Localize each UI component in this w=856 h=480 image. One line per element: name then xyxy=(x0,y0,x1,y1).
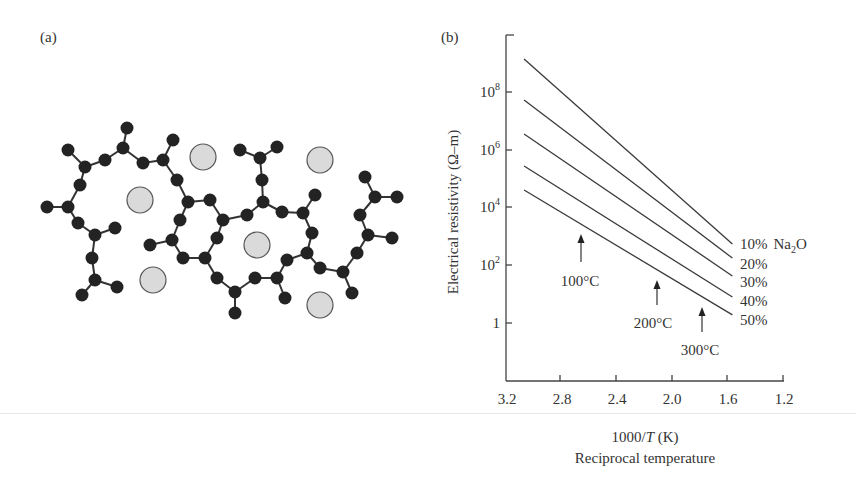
network-atom-icon xyxy=(241,209,254,222)
y-tick-1e6: 106 xyxy=(480,139,500,158)
series-label-20: 20% xyxy=(740,256,768,272)
x-tick-3-2: 3.2 xyxy=(498,391,517,407)
network-atom-icon xyxy=(354,209,367,222)
network-atom-icon xyxy=(167,134,180,147)
network-atom-icon xyxy=(217,214,230,227)
sodium-ion-icon xyxy=(244,232,270,258)
annotation-200c-label: 200°C xyxy=(634,315,673,331)
network-atom-icon xyxy=(62,201,75,214)
network-atom-icon xyxy=(62,144,75,157)
network-atom-icon xyxy=(254,152,267,165)
annotation-100c: 100°C xyxy=(561,234,600,289)
sodium-ion-icon xyxy=(190,144,216,170)
x-tick-2-8: 2.8 xyxy=(553,391,572,407)
network-atom-icon xyxy=(72,217,85,230)
network-atom-icon xyxy=(314,262,327,275)
network-atom-icon xyxy=(137,157,150,170)
network-atom-icon xyxy=(166,234,179,247)
network-atom-icon xyxy=(234,144,247,157)
panel-a: (a) xyxy=(40,29,404,320)
arrowhead-icon xyxy=(654,280,661,289)
series-line-2 xyxy=(524,100,732,258)
network-atom-icon xyxy=(297,207,310,220)
network-atom-icon xyxy=(171,174,184,187)
network-atom-icon xyxy=(99,154,112,167)
series-line-3 xyxy=(524,134,732,276)
network-atom-icon xyxy=(157,154,170,167)
network-atom-icon xyxy=(257,196,270,209)
figure: (a) (b) 108 106 104 xyxy=(0,0,856,480)
sodium-ion-icon xyxy=(307,147,333,173)
network-atom-icon xyxy=(249,272,262,285)
network-atom-icon xyxy=(271,141,284,154)
network-atom-icon xyxy=(79,161,92,174)
series-line-5 xyxy=(524,190,732,315)
series-line-4 xyxy=(524,166,732,297)
sodium-ion-icon xyxy=(140,267,166,293)
network-atom-icon xyxy=(256,174,269,187)
network-atom-icon xyxy=(229,307,242,320)
x-axis-subtitle: Reciprocal temperature xyxy=(575,450,716,466)
panel-b-label: (b) xyxy=(441,29,459,46)
y-tick-1e2: 102 xyxy=(480,254,500,273)
network-atom-icon xyxy=(199,252,212,265)
network-atom-icon xyxy=(281,254,294,267)
network-atom-icon xyxy=(359,171,372,184)
arrowhead-icon xyxy=(699,307,706,316)
y-tick-1e8: 108 xyxy=(480,81,500,100)
network-atom-icon xyxy=(229,286,242,299)
x-tick-1-2: 1.2 xyxy=(775,391,794,407)
annotation-100c-label: 100°C xyxy=(561,273,600,289)
network-atom-icon xyxy=(76,289,89,302)
annotation-300c: 300°C xyxy=(681,307,720,358)
network-atom-icon xyxy=(182,196,195,209)
network-atom-icon xyxy=(109,222,122,235)
x-axis-title: 1000/T (K) xyxy=(611,429,678,446)
panel-a-label: (a) xyxy=(40,29,57,46)
sodium-ion-icon xyxy=(127,187,153,213)
arrowhead-icon xyxy=(578,234,585,243)
panel-b: (b) 108 106 104 102 1 E xyxy=(441,29,807,466)
network-atom-icon xyxy=(204,194,217,207)
network-atoms xyxy=(41,122,404,320)
network-atom-icon xyxy=(279,292,292,305)
network-atom-icon xyxy=(271,272,284,285)
annotation-300c-label: 300°C xyxy=(681,342,720,358)
network-atom-icon xyxy=(362,229,375,242)
series-label-50: 50% xyxy=(740,312,768,328)
temperature-annotations: 100°C 200°C 300°C xyxy=(561,234,720,358)
network-atom-icon xyxy=(337,266,350,279)
network-atom-icon xyxy=(391,191,404,204)
network-atom-icon xyxy=(121,122,134,135)
network-atom-icon xyxy=(211,272,224,285)
network-atom-icon xyxy=(301,247,314,260)
y-axis-title: Electrical resistivity (Ω–m) xyxy=(445,130,462,294)
network-atom-icon xyxy=(369,191,382,204)
resistivity-lines xyxy=(524,59,732,315)
y-tick-1e4: 104 xyxy=(480,196,500,215)
network-atom-icon xyxy=(306,227,319,240)
network-atom-icon xyxy=(74,179,87,192)
network-atom-icon xyxy=(386,232,399,245)
network-atom-icon xyxy=(117,142,130,155)
network-atom-icon xyxy=(309,189,322,202)
network-atom-icon xyxy=(346,287,359,300)
series-line-1 xyxy=(524,59,732,244)
annotation-200c: 200°C xyxy=(634,280,673,331)
series-label-10: 10%Na2O xyxy=(740,236,807,255)
network-atom-icon xyxy=(174,214,187,227)
network-atom-icon xyxy=(211,232,224,245)
sodium-ion-icon xyxy=(307,292,333,318)
network-atom-icon xyxy=(89,229,102,242)
x-tick-2-4: 2.4 xyxy=(608,391,627,407)
y-tick-1: 1 xyxy=(493,315,501,331)
network-atom-icon xyxy=(276,206,289,219)
network-atom-icon xyxy=(86,252,99,265)
series-labels: 10%Na2O 20% 30% 40% 50% xyxy=(740,236,807,328)
series-label-30: 30% xyxy=(740,274,768,290)
page-divider-line xyxy=(0,413,856,414)
network-atom-icon xyxy=(351,247,364,260)
network-atom-icon xyxy=(41,201,54,214)
x-tick-labels: 3.2 2.8 2.4 2.0 1.6 1.2 xyxy=(498,391,794,407)
network-atom-icon xyxy=(111,281,124,294)
